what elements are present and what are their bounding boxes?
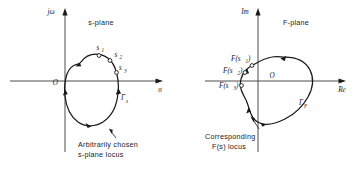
F-plane-point-Fs1-label: F(s 1 ) [230, 55, 251, 64]
F-plane-point-Fs3-marker [240, 84, 244, 88]
panel-F-plane: Im Re O F-plane F(s 1 ) F(s 2 ) F(s 3 ) [205, 8, 347, 152]
svg-text:F: F [303, 103, 308, 109]
s-plane-contour-label: Γ s [120, 94, 128, 104]
F-plane-contour-arrow-bottom [260, 122, 266, 126]
F-plane-point-Fs2-label: F(s 2 ) [222, 67, 243, 76]
s-plane-vertical-axis-arrowhead [62, 8, 67, 16]
svg-text:s: s [119, 64, 122, 72]
s-plane-horizontal-axis-arrowhead [156, 78, 164, 83]
s-plane-point-s3-label: s 3 [119, 64, 127, 74]
s-plane-vertical-axis-label: jω [46, 8, 54, 16]
F-plane-caption-line-1: Corresponding [205, 132, 255, 141]
mapping-diagram-figure: jω σ O s-plane s 1 s 2 s 3 Γ s [0, 0, 359, 169]
s-plane-origin-label: O [53, 79, 59, 87]
svg-text:): ) [247, 55, 251, 63]
s-plane-point-s2-marker [108, 59, 112, 63]
svg-text:2: 2 [120, 54, 123, 60]
s-plane-horizontal-axis [10, 78, 163, 83]
F-plane-vertical-axis-arrowhead [255, 8, 260, 16]
F-plane-point-Fs1-marker [250, 64, 254, 68]
svg-text:): ) [235, 82, 239, 90]
F-plane-horizontal-axis-label: Re [337, 86, 346, 94]
F-plane-vertical-axis-label: Im [240, 8, 249, 16]
svg-text:): ) [239, 67, 243, 75]
F-plane-horizontal-axis-arrowhead [339, 78, 347, 83]
s-plane-contour-arrow-left [63, 90, 68, 96]
s-plane-caption-line-1: Arbitrarily chosen [78, 140, 138, 149]
s-plane-contour-curve [65, 54, 119, 126]
svg-text:s: s [97, 44, 100, 52]
F-plane-caption-line-2: F(s) locus [212, 142, 246, 151]
F-plane-point-Fs3-label: F(s 3 ) [218, 82, 239, 91]
s-plane-caption-line-2: s-plane locus [78, 150, 124, 159]
svg-text:s: s [126, 98, 128, 104]
F-plane-vertical-axis [255, 8, 260, 152]
F-plane-point-Fs2-marker [243, 71, 247, 75]
F-plane-origin-label: O [269, 72, 275, 80]
svg-text:3: 3 [124, 68, 127, 74]
s-plane-point-s1-marker [97, 54, 101, 58]
svg-text:F(s: F(s [218, 82, 229, 90]
svg-text:F(s: F(s [222, 67, 233, 75]
svg-text:F(s: F(s [230, 55, 241, 63]
svg-text:s: s [115, 51, 118, 59]
s-plane-point-s2-label: s 2 [115, 51, 123, 60]
s-plane-point-s3-marker [115, 71, 119, 75]
s-plane-title: s-plane [88, 18, 113, 27]
s-plane-point-s1-label: s 1 [97, 44, 105, 53]
panel-s-plane: jω σ O s-plane s 1 s 2 s 3 Γ s [10, 8, 163, 159]
s-plane-horizontal-axis-label: σ [158, 86, 162, 94]
svg-text:1: 1 [102, 47, 105, 53]
F-plane-title: F-plane [283, 18, 309, 27]
